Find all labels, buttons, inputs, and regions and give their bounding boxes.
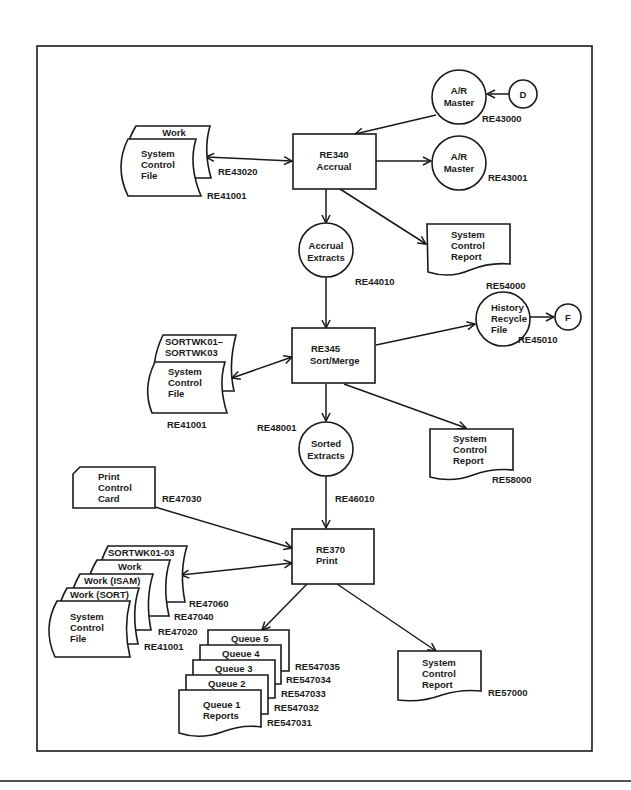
file-code: RE41001 xyxy=(167,419,207,430)
report-system-control-2[interactable]: System Control Report RE58000 xyxy=(430,429,532,485)
file-code: RE46010 xyxy=(335,493,375,504)
card-print-control[interactable]: Print Control Card RE47030 xyxy=(73,467,202,508)
file-work-system-control-1[interactable]: Work System Control File RE43020 RE41001 xyxy=(121,126,258,201)
process-id: RE345 xyxy=(311,343,341,354)
file-label: Sorted xyxy=(311,438,341,449)
file-label: File xyxy=(70,633,86,644)
sort-work-code: RE48001 xyxy=(257,422,297,433)
process-name: Accrual xyxy=(317,161,352,172)
file-label: A/R xyxy=(451,151,468,162)
report-label: Control xyxy=(453,444,487,455)
file-code: RE41001 xyxy=(144,641,184,652)
file-label: Master xyxy=(444,163,475,174)
file-ar-master-input[interactable]: A/R Master RE43000 xyxy=(432,70,522,124)
report-label: Report xyxy=(451,251,482,262)
file-sortwk-system-control-2[interactable]: SORTWK01– SORTWK03 System Control File R… xyxy=(148,335,236,430)
file-label: Accrual xyxy=(309,240,344,251)
card-label: Print xyxy=(98,471,120,482)
process-name: Sort/Merge xyxy=(310,355,360,366)
file-label: SORTWK01– xyxy=(165,336,223,347)
report-label: Reports xyxy=(203,710,239,721)
file-label: Recycle xyxy=(491,313,527,324)
connector-f[interactable]: F xyxy=(555,304,581,330)
connector-label: F xyxy=(565,312,571,323)
report-label: Queue 1 xyxy=(203,699,241,710)
file-label: Master xyxy=(444,97,475,108)
file-label: System xyxy=(168,366,202,377)
file-label: Work (ISAM) xyxy=(84,575,140,586)
card-label: Control xyxy=(98,482,132,493)
report-code: RE547035 xyxy=(295,661,341,672)
file-label: History xyxy=(491,302,524,313)
file-label: SORTWK01-03 xyxy=(108,547,175,558)
report-label: Queue 3 xyxy=(215,663,253,674)
file-code: RE43020 xyxy=(218,166,258,177)
process-re340[interactable]: RE340 Accrual xyxy=(293,134,376,189)
file-label: Control xyxy=(70,622,104,633)
file-code: RE43001 xyxy=(488,172,528,183)
report-label: System xyxy=(422,657,456,668)
report-code: RE58000 xyxy=(492,474,532,485)
file-accrual-extracts[interactable]: Accrual Extracts RE44010 xyxy=(299,223,395,287)
report-code: RE547032 xyxy=(274,702,319,713)
file-ar-master-output[interactable]: A/R Master RE43001 xyxy=(432,136,528,190)
file-label: File xyxy=(168,388,184,399)
file-label: Control xyxy=(168,377,202,388)
report-label: Report xyxy=(422,679,453,690)
file-code: RE47020 xyxy=(158,626,198,637)
card-code: RE47030 xyxy=(162,493,202,504)
process-re370[interactable]: RE370 Print xyxy=(292,529,374,584)
report-label: Report xyxy=(453,455,484,466)
file-code: RE41001 xyxy=(207,190,247,201)
process-re345[interactable]: RE345 Sort/Merge xyxy=(292,328,375,383)
file-history-recycle[interactable]: History Recycle File RE45010 xyxy=(476,292,558,346)
file-sorted-extracts[interactable]: Sorted Extracts RE46010 xyxy=(299,422,375,504)
report-code: RE547031 xyxy=(267,717,313,728)
file-label: Work xyxy=(118,561,142,572)
report-label: System xyxy=(453,433,487,444)
file-code: RE47040 xyxy=(174,611,214,622)
report-label: Queue 5 xyxy=(231,633,269,644)
report-system-control-1[interactable]: System Control Report RE54000 xyxy=(427,224,526,291)
report-code: RE57000 xyxy=(488,687,528,698)
file-code: RE43000 xyxy=(482,113,522,124)
file-label: A/R xyxy=(451,85,468,96)
report-code: RE547033 xyxy=(281,688,326,699)
report-queue-stack[interactable]: Queue 5 Queue 4 Queue 3 Queue 2 Queue 1 … xyxy=(179,630,341,736)
file-code: RE45010 xyxy=(518,334,558,345)
report-code: RE547034 xyxy=(286,674,332,685)
card-label: Card xyxy=(98,493,120,504)
report-label: Control xyxy=(451,240,485,251)
file-label: File xyxy=(491,324,507,335)
report-label: Control xyxy=(422,668,456,679)
file-label: System xyxy=(70,611,104,622)
file-label: Extracts xyxy=(307,450,345,461)
file-stack-print-work[interactable]: SORTWK01-03 Work Work (ISAM) Work (SORT)… xyxy=(49,546,229,657)
flowchart-canvas: RE340 Accrual A/R Master RE43000 D A/R M… xyxy=(0,0,631,790)
file-label: Control xyxy=(141,159,175,170)
file-code: RE47060 xyxy=(189,598,229,609)
file-code: RE44010 xyxy=(355,276,395,287)
file-label: File xyxy=(141,170,157,181)
report-label: Queue 2 xyxy=(208,678,246,689)
file-label: Work xyxy=(162,127,186,138)
file-label: System xyxy=(141,148,175,159)
process-name: Print xyxy=(316,555,338,566)
file-label: SORTWK03 xyxy=(165,347,218,358)
report-system-control-3[interactable]: System Control Report RE57000 xyxy=(398,651,528,701)
connector-label: D xyxy=(520,89,527,100)
file-label: Extracts xyxy=(307,252,345,263)
report-label: Queue 4 xyxy=(222,648,260,659)
process-id: RE340 xyxy=(319,149,348,160)
file-label: Work (SORT) xyxy=(70,589,129,600)
connector-d[interactable]: D xyxy=(509,80,537,108)
report-label: System xyxy=(451,229,485,240)
report-code: RE54000 xyxy=(486,280,526,291)
process-id: RE370 xyxy=(316,544,345,555)
